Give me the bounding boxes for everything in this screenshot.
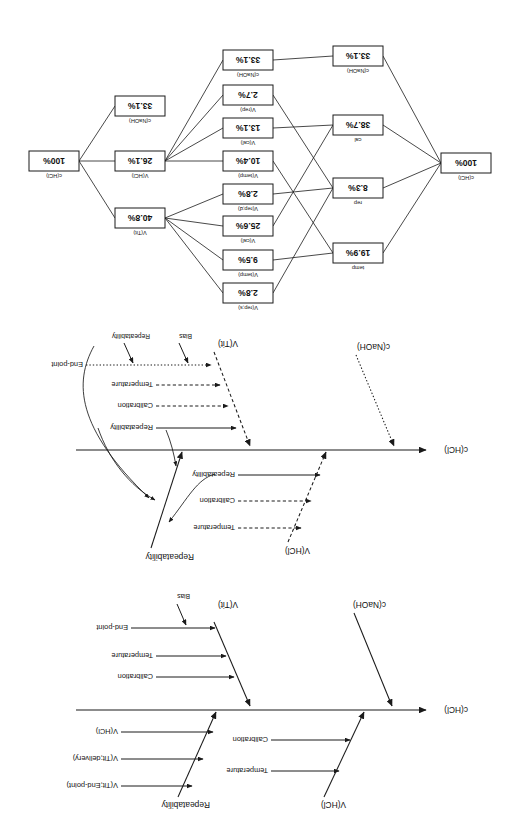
network-node-caption: temp [352,265,364,271]
network-node: c(NaOH)33.1% [223,50,273,78]
branch-b-cnaoh [356,355,394,446]
network-node-value: 9.5% [238,255,258,265]
network-edge [273,253,333,260]
network-edge [165,128,223,161]
network-edge [383,125,441,163]
effect-label-b: c(HCl) [444,445,468,455]
regroup-arrow-4 [83,346,149,498]
network-edge [165,218,223,260]
branch-b-cnaoh-label: c(NaOH) [357,342,390,352]
network-node-caption: V(rep;d) [238,206,258,212]
network-edge [79,106,115,161]
scanned-page: c(HCl) V(HCl) Temperature Calibration Re… [0,0,506,818]
network-node-value: 38.7% [345,120,370,130]
regroup-arrow-3 [166,430,176,466]
network-node-value: 33.1% [127,101,152,111]
network-edge [273,125,333,128]
twig-a-vhcl-calibration-label: Calibration [233,735,268,744]
twig-b-vtit-bias [179,343,188,363]
network-node-value: 13.1% [235,123,260,133]
twig-b-vhcl-temperature-label: Temperature [194,523,236,532]
branch-a-cnaoh-label: c(NaOH) [353,600,386,610]
network-edge [383,163,441,188]
branch-a-vtit [214,622,250,706]
network-edge [383,56,441,163]
network-node-value: 25.6% [235,221,260,231]
network-node-caption: c(NaOH) [237,72,259,78]
regroup-arrow-2 [98,428,155,500]
contribution-network-diagram: c(HCl)100%temp19.9%rep8.3%cal38.7%c(NaOH… [0,0,506,328]
branch-b-repeatability-label: Repeatability [145,552,194,562]
twig-a-rep-vhcl-label: V(HCl) [96,727,118,736]
twig-b-vhcl-calibration-label: Calibration [200,496,235,505]
network-node-caption: V(HCl) [131,173,148,179]
network-node-value: 8.3% [348,183,368,193]
network-node-caption: c(HCl) [458,175,474,181]
fishbone-diagram-b: c(HCl) V(HCl) Temperature Calibration Re… [0,328,506,578]
network-node-value: 40.8% [127,213,152,223]
twig-a-rep-endpoint-label: V(Tit;End-point) [67,781,118,790]
network-node-caption: V(Tit) [133,230,147,236]
network-edge [79,161,115,218]
twig-b-vtit-calibration-label: Calibration [118,401,153,410]
twig-b-vtit-repeatability-label: Repeatability [110,423,153,432]
contribution-network-canvas: c(HCl)100%temp19.9%rep8.3%cal38.7%c(NaOH… [0,0,506,328]
network-node: c(HCl)100% [441,153,491,181]
network-edge [165,218,223,226]
branch-a-repeatability [178,712,216,797]
twig-a-vtit-endpoint-label: End-point [96,623,128,632]
network-node-caption: V(temp) [238,272,258,278]
network-node-caption: V(cal) [241,238,256,244]
branch-a-cnaoh [354,613,392,706]
network-edge [273,188,333,293]
network-node: rep8.3% [333,178,383,206]
network-edge [273,95,333,188]
network-node: c(NaOH)33.1% [333,46,383,74]
network-node-caption: c(NaOH) [347,68,369,74]
network-node-value: 100% [455,158,477,168]
twig-a-vtit-bias [177,604,186,625]
fishbone-a-canvas: c(HCl) V(HCl) Temperature Calibration Re… [0,578,506,818]
network-node-layer: c(HCl)100%temp19.9%rep8.3%cal38.7%c(NaOH… [29,46,491,311]
network-node-caption: c(NaOH) [129,118,151,124]
twig-a-rep-delivery-label: V(Tit;delivery) [73,754,118,763]
network-node: V(temp)9.5% [223,250,273,278]
twig-b-vtit-temperature-label: Temperature [112,380,154,389]
network-node: c(NaOH)33.1% [115,96,165,124]
branch-a-vhcl [324,712,364,797]
network-node-value: 2.7% [238,90,258,100]
network-edge [165,60,223,161]
twig-b-vtit-bias-label: Bias [178,333,192,340]
network-node-value: 2.8% [238,189,258,199]
network-node: V(cal)25.6% [223,216,273,244]
network-node: V(rep;d)2.8% [223,184,273,212]
network-node-value: 100% [43,156,65,166]
network-edge [383,163,441,253]
network-node-caption: rep [354,200,362,206]
branch-b-vtit [214,352,250,446]
twig-a-vhcl-temperature-label: Temperature [227,766,269,775]
network-edge [165,218,223,293]
twig-a-vtit-temperature-label: Temperature [112,651,154,660]
branch-b-vhcl [288,452,326,542]
twig-a-vtit-bias-label: Bias [176,593,190,600]
network-node: V(rep;s)2.8% [223,283,273,311]
twig-a-vtit-calibration-label: Calibration [118,672,153,681]
network-node-value: 33.1% [345,51,370,61]
network-node-caption: V(rep) [240,107,256,113]
network-node-value: 19.9% [345,248,370,258]
branch-a-vtit-label: V(Tit) [218,600,238,610]
network-node: V(temp)10.4% [223,151,273,179]
fishbone-diagram-a: c(HCl) V(HCl) Temperature Calibration Re… [0,578,506,818]
network-edge [165,95,223,161]
fishbone-b-canvas: c(HCl) V(HCl) Temperature Calibration Re… [0,328,506,578]
twig-b-vtit-endpoint-label: End-point [51,360,83,369]
network-edge [165,194,223,218]
network-node-caption: V(cal) [241,140,256,146]
twig-b-vtit-endpoint-repeatability-label: Repeatability [111,332,150,340]
network-node: V(HCl)26.1% [115,151,165,179]
network-node: c(HCl)100% [29,151,79,179]
branch-b-vhcl-label: V(HCl) [285,546,310,556]
network-node-value: 10.4% [235,156,260,166]
network-edge [273,188,333,194]
